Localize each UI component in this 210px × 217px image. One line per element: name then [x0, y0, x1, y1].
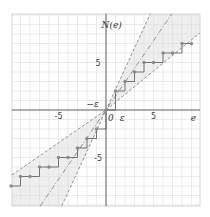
annotation: ε	[120, 113, 125, 123]
data-point	[142, 61, 145, 64]
annotation: −ε	[87, 99, 100, 109]
data-point	[133, 70, 136, 73]
annotation: e	[191, 113, 196, 123]
data-point	[28, 175, 31, 178]
data-point	[190, 42, 193, 45]
data-point	[85, 137, 88, 140]
y-tick-label: -5	[94, 154, 102, 163]
data-point	[95, 127, 98, 130]
data-point	[9, 184, 12, 187]
data-point	[19, 175, 22, 178]
chart: -555-5−ε0εeN(e)	[0, 0, 210, 217]
x-tick-label: -5	[55, 112, 63, 121]
data-point	[66, 156, 69, 159]
data-point	[180, 42, 183, 45]
data-point	[76, 146, 79, 149]
data-point	[114, 89, 117, 92]
data-point	[104, 108, 107, 111]
data-point	[161, 51, 164, 54]
data-point	[47, 165, 50, 168]
data-point	[171, 51, 174, 54]
data-point	[57, 156, 60, 159]
annotation: 0	[108, 113, 114, 123]
data-point	[123, 80, 126, 83]
annotation: N(e)	[101, 20, 123, 30]
x-tick-label: 5	[151, 112, 156, 121]
data-point	[38, 165, 41, 168]
y-tick-label: 5	[95, 59, 100, 68]
data-point	[152, 61, 155, 64]
